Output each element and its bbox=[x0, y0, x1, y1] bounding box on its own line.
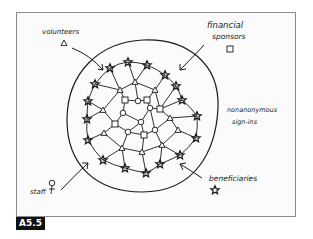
beneficiaries-label: beneficiaries bbox=[209, 174, 257, 183]
financial-sponsors-label-line1: financial bbox=[207, 20, 244, 30]
financial-sponsors-label-line2: sponsors bbox=[212, 32, 246, 41]
staff-label: staff bbox=[30, 188, 47, 196]
figure-label: A5.5 bbox=[16, 217, 45, 230]
staff-figure-icon bbox=[49, 180, 55, 194]
nonanonymous-label-line1: nonanonymous bbox=[227, 106, 278, 114]
network-diagram: volunteers financial sponsors nonanonymo… bbox=[0, 0, 313, 239]
volunteer-nodes bbox=[100, 79, 181, 154]
volunteer-triangle-icon bbox=[61, 40, 67, 45]
beneficiary-star-icon bbox=[211, 186, 219, 194]
sponsor-square-icon bbox=[227, 46, 233, 52]
volunteers-label: volunteers bbox=[42, 28, 79, 36]
sign-ins-label-line2: sign-ins bbox=[232, 118, 258, 126]
